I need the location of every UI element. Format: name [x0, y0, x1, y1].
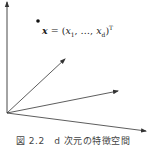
vector-2-arrow — [7, 91, 118, 113]
vector-formula: x = (x1, …, xd)T — [42, 24, 113, 38]
vector-1-arrow — [7, 59, 65, 113]
formula-sep: , …, — [75, 25, 97, 36]
vector-diagram — [0, 0, 147, 145]
vector-3-arrow — [7, 113, 146, 131]
figure-caption: 図 2.2 d 次元の特徴空間 — [16, 134, 130, 145]
formula-transpose: T — [109, 24, 113, 31]
formula-eq: = ( — [48, 25, 66, 36]
data-point — [36, 19, 40, 23]
